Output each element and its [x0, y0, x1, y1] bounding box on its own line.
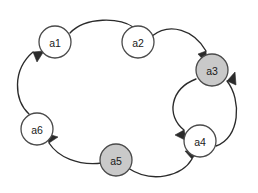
node-a4[interactable]: a4 — [184, 125, 216, 157]
node-layer: a1 a2 a3 a4 a5 a6 — [21, 26, 228, 176]
node-a5[interactable]: a5 — [100, 144, 132, 176]
edge-a2-a3-path — [152, 29, 206, 51]
node-a2-circle[interactable] — [122, 26, 154, 58]
node-a4-circle[interactable] — [184, 125, 216, 157]
edge-a2-a3 — [152, 29, 207, 64]
edge-a5-a4 — [128, 151, 198, 177]
edge-a6-a1-path — [17, 52, 33, 114]
edge-a5-a6 — [45, 133, 102, 164]
edge-a4-a3-path — [216, 81, 237, 146]
node-a5-circle[interactable] — [100, 144, 132, 176]
node-a2[interactable]: a2 — [122, 26, 154, 58]
edge-a5-a4-path — [128, 159, 192, 177]
node-a3-circle[interactable] — [196, 54, 228, 86]
edge-a1-a2-path — [70, 20, 133, 33]
node-a6-circle[interactable] — [21, 113, 53, 145]
graph-svg: a1 a2 a3 a4 a5 a6 — [0, 0, 258, 193]
node-a3[interactable]: a3 — [196, 54, 228, 86]
edge-a3-a4-path — [173, 79, 196, 130]
node-a1-circle[interactable] — [39, 26, 71, 58]
edge-a5-a6-path — [49, 143, 102, 164]
node-a1[interactable]: a1 — [39, 26, 71, 58]
graph-canvas: a1 a2 a3 a4 a5 a6 — [0, 0, 258, 193]
node-a6[interactable]: a6 — [21, 113, 53, 145]
edge-a6-a1 — [17, 51, 44, 114]
